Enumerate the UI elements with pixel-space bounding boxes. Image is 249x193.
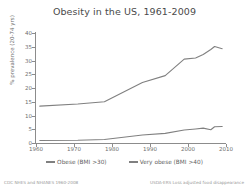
y-tick-mark	[32, 74, 35, 75]
source-note-right: USDA-ERS Loss adjusted food disappearanc…	[150, 180, 244, 185]
y-tick-mark	[32, 33, 35, 34]
x-tick-mark	[150, 144, 151, 147]
x-tick-mark	[188, 144, 189, 147]
y-tick-label: 15	[18, 99, 32, 105]
y-tick-label: 30	[18, 58, 32, 64]
legend-item[interactable]: Obese (BMI >30)	[46, 159, 107, 165]
y-tick-mark	[32, 116, 35, 117]
y-tick-label: 20	[18, 85, 32, 91]
y-axis-title: % prevalence (20-74 yrs)	[9, 0, 15, 100]
y-tick-label: 5	[18, 126, 32, 132]
y-tick-mark	[32, 47, 35, 48]
series-line	[40, 127, 222, 141]
x-tick-mark	[112, 144, 113, 147]
chart-title: Obesity in the US, 1961-2009	[0, 6, 249, 17]
y-tick-mark	[32, 129, 35, 130]
y-tick-label: 40	[18, 30, 32, 36]
x-tick-mark	[74, 144, 75, 147]
legend-label: Obese (BMI >30)	[57, 159, 107, 165]
chart-figure: Obesity in the US, 1961-2009 05101520253…	[0, 0, 249, 193]
legend-label: Very obese (BMI >40)	[140, 159, 203, 165]
y-tick-label: 10	[18, 113, 32, 119]
series-line	[40, 46, 222, 106]
x-axis-line	[35, 143, 226, 144]
y-tick-label: 35	[18, 44, 32, 50]
y-tick-mark	[32, 88, 35, 89]
x-tick-mark	[36, 144, 37, 147]
y-tick-mark	[32, 61, 35, 62]
source-note-left: CDC NHES and NHANES 1960-2008	[4, 180, 78, 185]
legend-line-swatch	[46, 161, 55, 162]
y-tick-mark	[32, 102, 35, 103]
chart-legend: Obese (BMI >30)Very obese (BMI >40)	[0, 159, 249, 165]
legend-line-swatch	[129, 161, 138, 162]
y-axis-line	[35, 32, 36, 144]
y-tick-label: 25	[18, 71, 32, 77]
legend-item[interactable]: Very obese (BMI >40)	[129, 159, 203, 165]
y-tick-mark	[32, 143, 35, 144]
x-tick-mark	[226, 144, 227, 147]
